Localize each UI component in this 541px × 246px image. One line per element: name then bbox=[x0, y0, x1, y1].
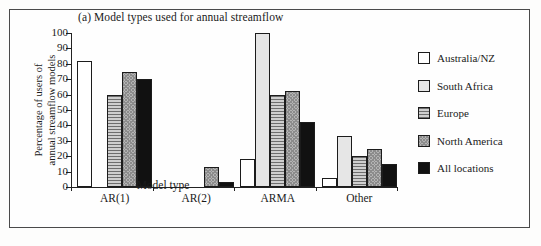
y-axis-tick-label: 60 bbox=[57, 88, 68, 101]
x-axis-tick-label: AR(2) bbox=[182, 192, 211, 204]
bar bbox=[255, 33, 270, 187]
legend-label: Australia/NZ bbox=[437, 52, 495, 64]
legend-item: North America bbox=[418, 130, 528, 152]
bar bbox=[240, 159, 255, 187]
y-axis-label: Percentage of users of annual streamflow… bbox=[33, 55, 58, 166]
y-axis-tick-label: 30 bbox=[57, 134, 68, 147]
legend-swatch bbox=[418, 107, 430, 119]
bar bbox=[270, 95, 285, 187]
legend-item: Europe bbox=[418, 102, 528, 124]
bar bbox=[367, 149, 382, 188]
bar bbox=[122, 72, 137, 188]
y-axis-tick-label: 40 bbox=[57, 118, 68, 131]
y-axis-tick-label: 20 bbox=[57, 149, 68, 162]
bar bbox=[107, 95, 122, 187]
bar bbox=[322, 178, 337, 187]
x-axis-label: Model type bbox=[137, 179, 190, 191]
x-axis-tick-mark bbox=[234, 187, 235, 191]
bar bbox=[137, 79, 152, 187]
x-axis-tick-label: ARMA bbox=[260, 192, 295, 204]
y-axis-tick-label: 80 bbox=[57, 57, 68, 70]
legend-label: Europe bbox=[437, 107, 469, 119]
bar-group-bars bbox=[159, 33, 234, 187]
bar-group bbox=[77, 33, 152, 187]
y-axis-tick-label: 50 bbox=[57, 103, 68, 116]
y-axis-tick-label: 100 bbox=[52, 26, 69, 39]
bar bbox=[352, 156, 367, 187]
bar bbox=[219, 182, 234, 187]
y-axis-line bbox=[71, 33, 72, 188]
chart-title: (a) Model types used for annual streamfl… bbox=[78, 11, 283, 23]
x-axis-tick-mark bbox=[397, 187, 398, 191]
legend-item: South Africa bbox=[418, 75, 528, 97]
legend-item: All locations bbox=[418, 157, 528, 179]
y-axis-tick-label: 10 bbox=[57, 165, 68, 178]
y-axis-tick-label: 70 bbox=[57, 72, 68, 85]
legend-label: North America bbox=[437, 135, 503, 147]
bar bbox=[285, 91, 300, 187]
chart-legend: Australia/NZSouth AfricaEuropeNorth Amer… bbox=[418, 47, 528, 185]
y-axis-tick-label: 90 bbox=[57, 41, 68, 54]
y-axis-label-line-1: Percentage of users of bbox=[33, 55, 46, 166]
bar bbox=[382, 164, 397, 187]
x-axis-tick-label: Other bbox=[346, 192, 372, 204]
bar bbox=[337, 136, 352, 187]
bar-group bbox=[322, 33, 397, 187]
legend-label: All locations bbox=[437, 162, 494, 174]
plot-area: Percentage of users of annual streamflow… bbox=[71, 33, 397, 188]
x-axis-tick-mark bbox=[316, 187, 317, 191]
bar-group-bars bbox=[77, 33, 152, 187]
legend-label: South Africa bbox=[437, 80, 493, 92]
x-axis-tick-label: AR(1) bbox=[100, 192, 129, 204]
x-axis-tick-mark bbox=[71, 187, 72, 191]
bar-group-bars bbox=[322, 33, 397, 187]
bar-group-bars bbox=[240, 33, 315, 187]
legend-swatch bbox=[418, 80, 430, 92]
bar bbox=[77, 61, 92, 187]
bar bbox=[300, 122, 315, 187]
figure-panel: (a) Model types used for annual streamfl… bbox=[0, 0, 541, 246]
legend-swatch bbox=[418, 162, 430, 174]
legend-swatch bbox=[418, 135, 430, 147]
y-axis-label-line-2: annual streamflow models bbox=[45, 55, 58, 166]
bar bbox=[204, 167, 219, 187]
bar-group bbox=[159, 33, 234, 187]
legend-swatch bbox=[418, 52, 430, 64]
legend-item: Australia/NZ bbox=[418, 47, 528, 69]
y-axis-tick-label: 0 bbox=[63, 180, 69, 193]
bar-group bbox=[240, 33, 315, 187]
